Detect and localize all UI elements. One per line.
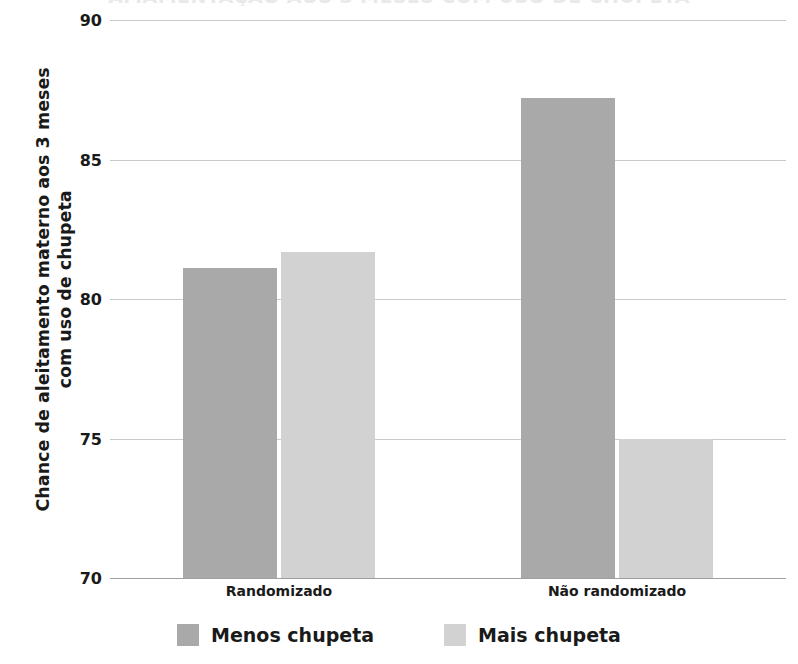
y-tick-label-70: 70: [58, 569, 102, 588]
legend-label-1: Mais chupeta: [478, 624, 621, 646]
chart-title: AMAMENTAÇÃO AOS 3 MESES COM USO DE CHUPE…: [0, 0, 798, 6]
y-tick-label-90: 90: [58, 11, 102, 30]
plot-area: [110, 20, 786, 578]
gridline-70: [110, 578, 786, 579]
legend-item-1[interactable]: Mais chupeta: [444, 624, 621, 646]
y-tick-label-80: 80: [58, 290, 102, 309]
y-tick-label-75: 75: [58, 430, 102, 449]
category-label-0: Randomizado: [226, 583, 332, 599]
legend-swatch-icon-1: [444, 624, 466, 646]
y-axis-tick-labels: 7075808590: [40, 20, 102, 578]
gridline-85: [110, 160, 786, 161]
legend-swatch-icon-0: [177, 624, 199, 646]
category-label-1: Não randomizado: [548, 583, 686, 599]
bar-chart-figure: AMAMENTAÇÃO AOS 3 MESES COM USO DE CHUPE…: [0, 0, 798, 664]
bar-randomizado-mais-chupeta: [281, 252, 375, 578]
legend-label-0: Menos chupeta: [211, 624, 374, 646]
legend-item-0[interactable]: Menos chupeta: [177, 624, 374, 646]
bar-não-randomizado-mais-chupeta: [619, 439, 713, 579]
gridline-90: [110, 20, 786, 21]
bar-não-randomizado-menos-chupeta: [521, 98, 615, 578]
x-axis-category-labels: RandomizadoNão randomizado: [110, 583, 786, 609]
y-tick-label-85: 85: [58, 151, 102, 170]
bar-randomizado-menos-chupeta: [183, 268, 277, 578]
chart-legend: Menos chupetaMais chupeta: [0, 618, 798, 652]
